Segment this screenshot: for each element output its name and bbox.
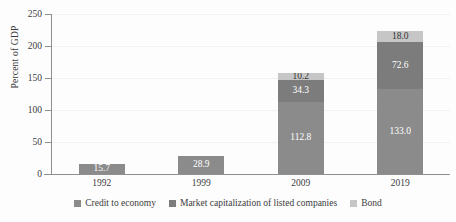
y-tick-label: 50	[0, 137, 42, 147]
y-tick-label: 100	[0, 105, 42, 115]
legend-item[interactable]: Market capitalization of listed companie…	[169, 198, 337, 208]
y-tick-label: 150	[0, 73, 42, 83]
y-tick-mark	[45, 78, 51, 79]
bar-group[interactable]: 28.9	[178, 156, 224, 174]
legend-label: Credit to economy	[85, 198, 156, 208]
legend-label: Bond	[361, 198, 382, 208]
y-tick-label: 0	[0, 169, 42, 179]
bar-group[interactable]: 15.7	[79, 164, 125, 174]
bar-group[interactable]: 10.234.3112.8	[278, 73, 324, 174]
bar-segment[interactable]: 112.8	[278, 102, 324, 174]
x-tick-label: 1992	[62, 178, 142, 188]
legend-swatch-icon	[350, 200, 357, 207]
bar-segment[interactable]: 28.9	[178, 156, 224, 174]
legend-item[interactable]: Credit to economy	[74, 198, 156, 208]
y-tick-mark	[45, 110, 51, 111]
x-tick-label: 2019	[360, 178, 440, 188]
bar-segment[interactable]: 18.0	[377, 31, 423, 43]
stacked-bar-chart: Percent of GDP 050100150200250 15.728.91…	[0, 0, 456, 222]
bar-segment[interactable]: 72.6	[377, 42, 423, 88]
y-tick-mark	[45, 46, 51, 47]
bar-segment[interactable]: 133.0	[377, 89, 423, 174]
y-tick-label: 250	[0, 9, 42, 19]
legend-swatch-icon	[74, 200, 81, 207]
x-tick-label: 2009	[261, 178, 341, 188]
gridline	[52, 14, 450, 15]
y-tick-mark	[45, 174, 51, 175]
bar-segment[interactable]: 15.7	[79, 164, 125, 174]
legend-swatch-icon	[169, 200, 176, 207]
x-axis-line	[44, 174, 450, 175]
legend-item[interactable]: Bond	[350, 198, 382, 208]
y-tick-mark	[45, 142, 51, 143]
legend-label: Market capitalization of listed companie…	[180, 198, 337, 208]
y-tick-mark	[45, 14, 51, 15]
plot-area: 15.728.910.234.3112.818.072.6133.0	[52, 14, 450, 174]
bar-segment[interactable]: 34.3	[278, 80, 324, 102]
x-tick-label: 1999	[161, 178, 241, 188]
chart-legend: Credit to economyMarket capitalization o…	[0, 198, 456, 208]
bar-group[interactable]: 18.072.6133.0	[377, 31, 423, 174]
y-tick-label: 200	[0, 41, 42, 51]
